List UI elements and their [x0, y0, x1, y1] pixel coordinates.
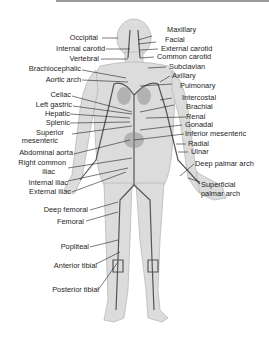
label-superficial-palmar-arch-line2: palmar arch [201, 190, 240, 198]
label-popliteal: Popliteal [61, 243, 89, 251]
label-posterior-tibial: Posterior tibial [52, 286, 99, 294]
label-deep-palmar-arch: Deep palmar arch [195, 160, 254, 168]
label-ulnar: Ulnar [191, 148, 209, 156]
label-internal-iliac: Internal iliac [29, 179, 68, 187]
label-superficial-palmar-arch-line1: Superficial [201, 181, 236, 189]
label-axillary: Axillary [172, 72, 196, 80]
label-subclavian: Subclavian [169, 63, 205, 71]
label-internal-carotid: Internal carotid [56, 45, 105, 53]
label-common-carotid: Common carotid [157, 53, 211, 61]
label-pulmonary: Pulmonary [180, 82, 215, 90]
label-right-common-iliac-line2: iliac [42, 168, 55, 176]
human-body-illustration [0, 0, 269, 337]
label-aortic-arch: Aortic arch [46, 76, 81, 84]
label-brachial: Brachial [186, 103, 213, 111]
label-intercostal: Intercostal [182, 94, 216, 102]
label-splenic: Splenic [46, 119, 70, 127]
label-external-iliac: External iliac [29, 188, 71, 196]
label-vertebral: Vertebral [69, 55, 99, 63]
label-brachiocephalic: Brachiocephalic [29, 65, 81, 73]
label-anterior-tibial: Anterior tibial [54, 262, 97, 270]
label-right-common-iliac-line1: Right common [18, 159, 66, 167]
label-superior-mesenteric-line2: mesenteric [22, 137, 58, 145]
label-gonadal: Gonadal [185, 121, 213, 129]
label-femoral: Femoral [57, 218, 84, 226]
label-celiac: Celiac [50, 91, 71, 99]
label-inferior-mesenteric: Inferior mesenteric [185, 130, 246, 138]
label-hepatic: Hepatic [45, 110, 70, 118]
label-abdominal-aorta: Abdominal aorta [19, 149, 73, 157]
label-deep-femoral: Deep femoral [44, 206, 88, 214]
label-occipital: Occipital [70, 34, 98, 42]
label-maxillary: Maxillary [167, 26, 196, 34]
label-facial: Facial [165, 36, 185, 44]
label-left-gastric: Left gastric [36, 101, 72, 109]
